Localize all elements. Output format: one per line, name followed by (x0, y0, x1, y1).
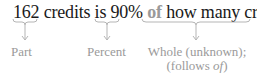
whole-label: Whole (unknown); (follows of) (145, 45, 249, 73)
part-brace-icon (13, 19, 37, 25)
percent-label: Percent (87, 45, 126, 59)
whole-brace-icon (142, 19, 250, 25)
part-label: Part (11, 45, 32, 59)
percent-brace-icon (95, 19, 119, 25)
